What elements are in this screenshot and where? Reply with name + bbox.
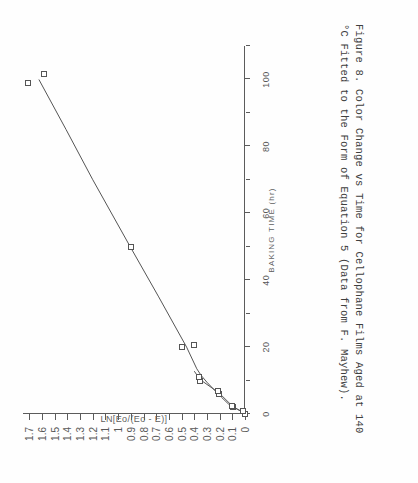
y-tick-label: 1.2 (87, 427, 98, 441)
y-tick-label: 1.1 (100, 427, 111, 441)
x-tick-minor (246, 179, 250, 180)
data-point-marker (229, 403, 235, 409)
x-tick-minor (246, 112, 250, 113)
x-tick-major (245, 212, 250, 213)
data-point-marker (179, 344, 185, 350)
data-point-marker (215, 388, 221, 394)
x-tick-minor (246, 246, 250, 247)
y-tick-label: 0.3 (201, 427, 212, 441)
fit-curve-layer (23, 46, 245, 414)
y-tick-label: 0.8 (138, 427, 149, 441)
data-point-marker (191, 342, 197, 348)
y-tick-label: 0.1 (227, 427, 238, 441)
data-point-marker (25, 80, 31, 86)
x-tick-minor (246, 380, 250, 381)
y-tick-label: 0.2 (214, 427, 225, 441)
caption-line-2: °C Fitted to the Form of Equation 5 (Dat… (336, 24, 351, 464)
y-tick-label: 0.4 (189, 427, 200, 441)
y-tick-label: 1.5 (49, 427, 60, 441)
y-axis-title: LN[Eo/(Eo - E)] (23, 414, 245, 424)
data-point-marker (240, 408, 246, 414)
fit-curve (39, 80, 245, 414)
x-tick-major (245, 279, 250, 280)
data-point-marker (196, 374, 202, 380)
rotated-plot-container: 020406080100 00.10.20.30.40.50.60.70.80.… (5, 0, 305, 470)
y-tick-label: 0.5 (176, 427, 187, 441)
x-axis-title: BAKING TIME (hr) (267, 46, 276, 414)
y-tick-label: 1.3 (75, 427, 86, 441)
y-tick-label: 0.7 (151, 427, 162, 441)
scanned-figure-page: 020406080100 00.10.20.30.40.50.60.70.80.… (0, 0, 418, 483)
plot-area: 020406080100 00.10.20.30.40.50.60.70.80.… (23, 46, 245, 414)
figure-caption: Figure 8. Color Change vs Time for Cello… (336, 24, 366, 464)
y-tick-label: 0.6 (163, 427, 174, 441)
y-tick-label: 1.6 (37, 427, 48, 441)
x-tick-minor (246, 45, 250, 46)
y-tick-label: 1.7 (24, 427, 35, 441)
data-point-marker (41, 71, 47, 77)
x-tick-minor (246, 313, 250, 314)
x-tick-major (245, 78, 250, 79)
caption-line-1: Figure 8. Color Change vs Time for Cello… (351, 24, 366, 464)
y-tick-label: 1 (113, 427, 124, 433)
y-tick-label: 0.9 (125, 427, 136, 441)
y-tick-label: 0 (240, 427, 251, 433)
x-tick-major (245, 145, 250, 146)
x-tick-major (245, 346, 250, 347)
data-point-marker (128, 244, 134, 250)
y-tick-label: 1.4 (62, 427, 73, 441)
